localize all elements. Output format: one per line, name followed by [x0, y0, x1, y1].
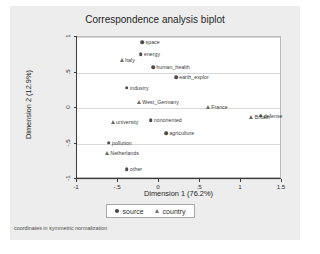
data-point-source[interactable] — [141, 41, 145, 45]
y-axis-title: Dimension 2 (12.9%) — [24, 50, 33, 160]
legend-label-source: source — [123, 208, 144, 215]
x-axis-title: Dimension 1 (76.2%) — [76, 189, 281, 198]
data-point-source[interactable] — [139, 53, 143, 57]
y-axis-tick-label: 0 — [64, 105, 71, 108]
plot-area — [76, 36, 281, 178]
x-axis-tick — [158, 179, 159, 182]
x-axis-tick — [281, 179, 282, 182]
data-point-country[interactable] — [249, 115, 253, 119]
legend: source country — [106, 204, 195, 218]
data-point-source[interactable] — [149, 119, 153, 123]
data-point-label: university — [116, 119, 138, 125]
data-point-label: West_Germany — [142, 99, 179, 105]
data-point-country[interactable] — [206, 105, 210, 109]
data-point-source[interactable] — [125, 168, 129, 172]
y-axis-tick-label: 1 — [64, 34, 71, 37]
x-axis: -1-.50.511.5 — [76, 178, 281, 179]
y-axis-tick-label: .5 — [64, 69, 71, 74]
legend-item-country[interactable]: country — [155, 208, 186, 215]
gridline — [77, 108, 280, 109]
data-point-label: industry — [130, 85, 149, 91]
y-axis-tick — [74, 143, 77, 144]
y-axis-tick-label: -1 — [64, 175, 71, 181]
data-point-label: human_health — [156, 64, 189, 70]
gridline — [77, 179, 280, 180]
chart-title: Correspondence analysis biplot — [10, 14, 300, 25]
data-point-source[interactable] — [164, 131, 168, 135]
y-axis-tick-label: -.5 — [64, 139, 71, 146]
data-point-label: agriculture — [169, 130, 194, 136]
x-axis-tick — [199, 179, 200, 182]
legend-item-source[interactable]: source — [115, 208, 144, 215]
data-point-label: energy — [144, 51, 160, 57]
gridline — [77, 37, 280, 38]
y-axis — [76, 36, 77, 178]
data-point-label: France — [211, 104, 227, 110]
circle-marker-icon — [115, 209, 119, 213]
x-axis-tick — [240, 179, 241, 182]
data-point-source[interactable] — [107, 141, 111, 145]
chart-footnote: coordinates in symmetric normalization — [14, 225, 107, 231]
data-point-label: Netherlands — [110, 150, 139, 156]
data-point-source[interactable] — [151, 65, 155, 69]
x-axis-tick — [117, 179, 118, 182]
data-point-country[interactable] — [120, 58, 124, 62]
data-point-label: pollution — [112, 140, 132, 146]
data-point-country[interactable] — [105, 151, 109, 155]
y-axis-tick — [74, 107, 77, 108]
data-point-label: other — [130, 166, 142, 172]
data-point-label: space — [146, 39, 160, 45]
x-axis-tick — [76, 179, 77, 182]
data-point-label: Britain — [255, 114, 270, 120]
data-point-label: nonoriented — [154, 117, 182, 123]
data-point-country[interactable] — [137, 100, 141, 104]
data-point-source[interactable] — [125, 86, 129, 90]
triangle-marker-icon — [155, 209, 159, 213]
data-point-label: Italy — [125, 57, 135, 63]
data-point-source[interactable] — [174, 75, 178, 79]
legend-label-country: country — [163, 208, 186, 215]
y-axis-tick — [74, 72, 77, 73]
y-axis-tick — [74, 36, 77, 37]
data-point-label: earth_explor — [179, 74, 208, 80]
graph-canvas: Correspondence analysis biplot -1-.50.51… — [10, 6, 300, 240]
data-point-country[interactable] — [111, 120, 115, 124]
